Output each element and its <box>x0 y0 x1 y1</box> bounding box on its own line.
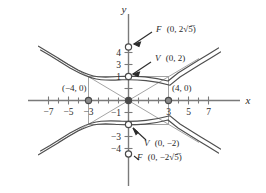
xtick-3: 3 <box>166 107 171 117</box>
vertex-upper-coord: (0, 2) <box>166 53 186 63</box>
x-axis-label: x <box>245 94 251 106</box>
ytick-neg4: −4 <box>111 144 121 154</box>
vertex-lower-letter: V <box>144 138 151 148</box>
lower-branch-inner <box>41 116 221 151</box>
focus-lower-letter: F <box>136 152 143 162</box>
upper-branch-inner <box>41 50 221 85</box>
ytick-4: 4 <box>116 48 121 58</box>
focus-upper-arrow <box>134 32 152 44</box>
focus-upper-marker <box>125 44 131 50</box>
ytick-3: 3 <box>116 60 121 70</box>
corner-right-marker <box>165 97 171 103</box>
focus-upper-coord: (0, 2√5̅) <box>167 24 196 34</box>
vertex-lower-marker <box>125 121 131 127</box>
ytick-neg3: −3 <box>111 132 121 142</box>
vertex-upper-marker <box>125 73 131 79</box>
ytick-1: 1 <box>116 72 121 82</box>
focus-lower-marker <box>125 151 131 157</box>
xtick-5: 5 <box>186 107 191 117</box>
hyperbola-figure: −7 −5 −3 3 5 7 4 3 1 −1 −3 −4 y x F (0, … <box>0 0 266 193</box>
focus-upper-letter: F <box>155 24 162 34</box>
origin-marker <box>125 97 131 103</box>
focus-upper-label: F (0, 2√5̅) <box>155 24 196 34</box>
xtick-neg5: −5 <box>63 107 73 117</box>
vertex-lower-label: V (0, −2) <box>144 138 179 148</box>
vertex-upper-arrow <box>133 62 151 74</box>
corner-left-label: (−4, 0) <box>62 83 87 93</box>
xtick-neg7: −7 <box>43 107 53 117</box>
focus-lower-coord: (0, −2√5̅) <box>148 152 182 162</box>
corner-left-marker <box>85 97 91 103</box>
y-axis-label: y <box>121 3 127 15</box>
xtick-neg3: −3 <box>83 107 93 117</box>
vertex-upper-label: V (0, 2) <box>155 53 185 63</box>
ytick-neg1: −1 <box>111 108 121 118</box>
vertex-upper-letter: V <box>155 53 162 63</box>
graph-canvas: −7 −5 −3 3 5 7 4 3 1 −1 −3 −4 y x F (0, … <box>0 0 266 193</box>
vertex-lower-coord: (0, −2) <box>155 138 180 148</box>
xtick-7: 7 <box>206 107 211 117</box>
corner-right-label: (4, 0) <box>172 83 192 93</box>
focus-lower-label: F (0, −2√5̅) <box>136 152 182 162</box>
